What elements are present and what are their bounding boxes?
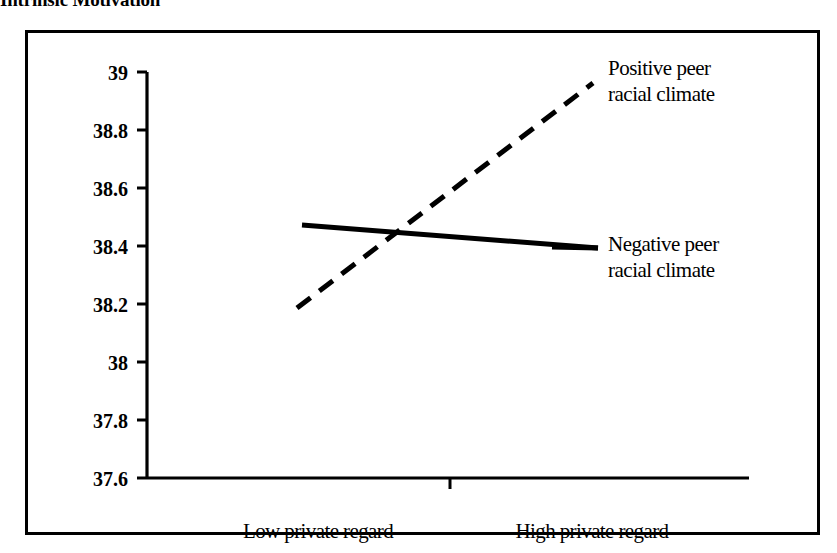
series-label-positive-line1: Positive peer (608, 55, 715, 81)
x-tick-label-low-private-regard: Low private regard (183, 520, 453, 543)
series-label-negative-line1: Negative peer (608, 231, 719, 257)
y-tick-label-38-6: 38.6 (28, 179, 128, 199)
figure-title: Intrinsic Motivation (0, 0, 500, 13)
series-label-positive-peer-racial-climate: Positive peer racial climate (608, 55, 715, 107)
y-tick-label-38-8: 38.8 (28, 121, 128, 141)
x-tick-label-high-private-regard: High private regard (452, 520, 732, 543)
series-label-negative-line2: racial climate (608, 257, 719, 283)
y-tick-label-37-6: 37.6 (28, 469, 128, 489)
series-label-negative-peer-racial-climate: Negative peer racial climate (608, 231, 719, 283)
y-tick-label-38-2: 38.2 (28, 295, 128, 315)
series-line-positive-peer-racial-climate (297, 83, 593, 308)
y-tick-label-39: 39 (28, 63, 128, 83)
y-tick-label-38: 38 (28, 353, 128, 373)
legend-swatch-negative-peer (552, 247, 598, 248)
y-tick-label-37-8: 37.8 (28, 411, 128, 431)
plot-area: 39 38.8 38.6 38.4 38.2 38 37.8 37.6 Low … (28, 33, 817, 532)
chart-frame: 39 38.8 38.6 38.4 38.2 38 37.8 37.6 Low … (25, 30, 820, 535)
series-label-positive-line2: racial climate (608, 81, 715, 107)
y-tick-label-38-4: 38.4 (28, 237, 128, 257)
